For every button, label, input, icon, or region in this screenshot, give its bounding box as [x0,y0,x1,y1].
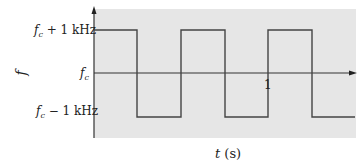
y-tick-low: fc − 1 kHz [36,104,98,120]
y-tick-high: fc + 1 kHz [34,23,96,39]
y-axis-label: f [13,70,29,75]
y-tick-mid: fc [80,66,89,82]
x-tick-1: 1 [264,78,272,92]
x-axis-label: t (s) [215,146,241,161]
